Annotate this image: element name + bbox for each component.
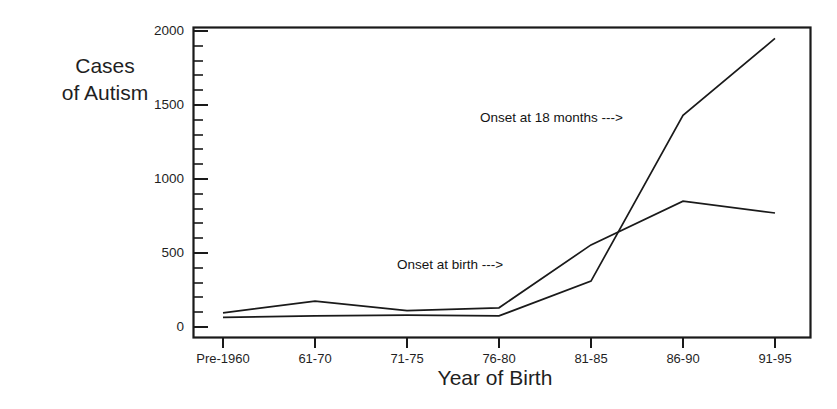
x-tick-label-76-80: 76-80 xyxy=(449,351,549,366)
chart-figure: Cases of Autism xyxy=(0,0,837,409)
annotation-onset-at-birth: Onset at birth ---> xyxy=(397,257,503,272)
axis-frame xyxy=(194,28,811,338)
x-axis-title: Year of Birth xyxy=(330,366,660,390)
y-tick-label-500: 500 xyxy=(128,245,184,260)
x-tick-label-91-95: 91-95 xyxy=(725,351,825,366)
y-tick-label-1000: 1000 xyxy=(128,171,184,186)
plot-area xyxy=(0,0,837,409)
x-tick-label-86-90: 86-90 xyxy=(633,351,733,366)
y-tick-label-1500: 1500 xyxy=(128,97,184,112)
x-tick-label-81-85: 81-85 xyxy=(541,351,641,366)
annotation-onset-at-18-months: Onset at 18 months ---> xyxy=(480,110,623,125)
y-tick-label-2000: 2000 xyxy=(128,23,184,38)
x-tick-label-61-70: 61-70 xyxy=(265,351,365,366)
x-major-ticks xyxy=(223,338,775,348)
x-tick-label-71-75: 71-75 xyxy=(357,351,457,366)
y-tick-label-0: 0 xyxy=(128,319,184,334)
series-line-onset-at-18-months xyxy=(223,38,775,317)
x-tick-label-pre-1960: Pre-1960 xyxy=(173,351,273,366)
